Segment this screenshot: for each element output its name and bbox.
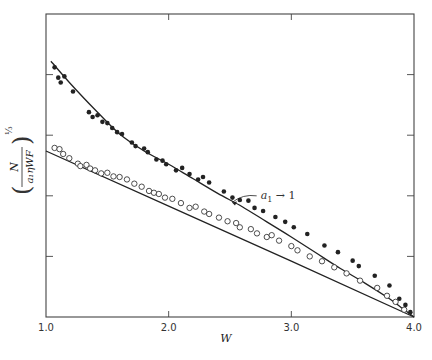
data-point-open xyxy=(99,171,104,176)
data-point-filled xyxy=(164,162,169,167)
data-point-filled xyxy=(87,110,92,115)
data-point-filled xyxy=(71,89,76,94)
plot-frame xyxy=(46,14,414,317)
data-point-filled xyxy=(273,215,278,220)
data-point-filled xyxy=(56,75,61,80)
x-tick-label: 4.0 xyxy=(406,322,422,333)
chart: 1.02.03.04.0 a1 → 1 W N a₁ηWF ( ) ⅓ xyxy=(0,0,432,360)
data-point-open xyxy=(357,278,362,283)
x-tick-label: 2.0 xyxy=(161,322,177,333)
data-point-filled xyxy=(283,220,288,225)
x-tick-label: 3.0 xyxy=(283,322,299,333)
data-point-open xyxy=(237,225,242,230)
data-point-filled xyxy=(336,250,341,255)
y-label-left-paren: ( xyxy=(8,186,36,195)
data-point-filled xyxy=(403,303,408,308)
data-point-filled xyxy=(180,166,185,171)
x-axis-label: W xyxy=(220,332,233,345)
data-point-filled xyxy=(305,232,310,237)
data-point-open xyxy=(332,265,337,270)
data-point-filled xyxy=(146,150,151,155)
y-label-numerator: N xyxy=(8,162,21,173)
data-point-filled xyxy=(187,172,192,177)
data-point-filled xyxy=(160,158,165,163)
data-point-open xyxy=(269,232,274,237)
plot-border xyxy=(46,14,414,317)
data-point-open xyxy=(187,205,192,210)
data-point-filled xyxy=(261,209,266,214)
data-point-filled xyxy=(291,225,296,230)
data-point-open xyxy=(393,299,398,304)
y-label-denominator: a₁ηWF xyxy=(24,149,35,183)
data-point-open xyxy=(92,168,97,173)
data-point-filled xyxy=(95,113,100,118)
data-point-open xyxy=(289,243,294,248)
data-point-filled xyxy=(222,189,227,194)
data-point-open xyxy=(307,254,312,259)
data-point-filled xyxy=(120,132,125,137)
data-point-open xyxy=(248,226,253,231)
data-point-open xyxy=(111,174,116,179)
data-point-filled xyxy=(246,198,251,203)
data-point-open xyxy=(401,307,406,312)
data-point-filled xyxy=(387,283,392,288)
data-point-open xyxy=(178,200,183,205)
data-point-filled xyxy=(90,115,95,120)
y-axis-label: N a₁ηWF ( ) ⅓ xyxy=(4,126,36,195)
data-point-filled xyxy=(115,130,120,135)
data-point-filled xyxy=(408,310,413,315)
data-point-filled xyxy=(58,80,63,85)
data-point-filled xyxy=(105,121,110,126)
data-point-open xyxy=(170,196,175,201)
data-point-open xyxy=(319,259,324,264)
data-point-open xyxy=(193,204,198,209)
data-point-filled xyxy=(207,180,212,185)
data-point-filled xyxy=(142,146,147,151)
data-point-open xyxy=(132,181,137,186)
data-point-open xyxy=(344,271,349,276)
data-point-open xyxy=(216,215,221,220)
data-point-filled xyxy=(62,74,67,79)
data-point-open xyxy=(117,174,122,179)
data-point-filled xyxy=(52,65,57,70)
data-point-filled xyxy=(174,168,179,173)
data-point-open xyxy=(124,177,129,182)
x-tick-label: 1.0 xyxy=(38,322,54,333)
data-point-filled xyxy=(357,264,362,269)
y-label-right-paren: ) xyxy=(8,136,36,145)
data-point-filled xyxy=(201,175,206,180)
annotation-label: a1 → 1 xyxy=(261,189,296,204)
data-point-filled xyxy=(154,157,159,162)
data-point-open xyxy=(67,156,72,161)
data-point-open xyxy=(375,285,380,290)
data-point-open xyxy=(60,151,65,156)
data-point-open xyxy=(276,238,281,243)
data-point-filled xyxy=(130,140,135,145)
data-point-open xyxy=(156,191,161,196)
y-label-exponent: ⅓ xyxy=(4,126,14,135)
data-point-filled xyxy=(252,206,257,211)
data-point-open xyxy=(225,219,230,224)
annotation: a1 → 1 xyxy=(232,189,296,206)
data-point-open xyxy=(254,231,259,236)
data-points xyxy=(52,65,413,314)
data-point-filled xyxy=(230,195,235,200)
data-point-filled xyxy=(100,120,105,125)
data-point-open xyxy=(105,170,110,175)
annotation-leader-line xyxy=(232,195,257,202)
data-point-open xyxy=(162,195,167,200)
data-point-filled xyxy=(133,144,138,149)
data-point-filled xyxy=(322,243,327,248)
data-point-open xyxy=(78,163,83,168)
data-point-filled xyxy=(196,177,201,182)
data-point-open xyxy=(295,248,300,253)
ticks xyxy=(46,14,414,317)
data-point-filled xyxy=(110,126,115,131)
data-point-open xyxy=(139,184,144,189)
data-point-filled xyxy=(372,273,377,278)
data-point-open xyxy=(206,211,211,216)
data-point-open xyxy=(57,146,62,151)
data-point-filled xyxy=(350,258,355,263)
data-point-open xyxy=(384,293,389,298)
